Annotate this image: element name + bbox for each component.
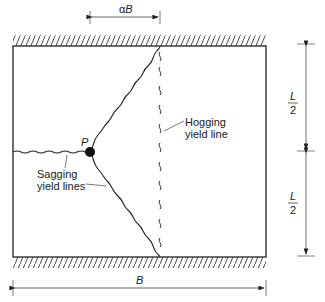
hogging-label-1: Hogging bbox=[185, 116, 226, 128]
sagging-leader-2 bbox=[86, 184, 106, 186]
l-upper-numerator: L bbox=[290, 90, 296, 102]
yield-line-diagram: P Hogging yield line Sagging yield lines… bbox=[0, 0, 325, 302]
alpha-b-label: αB bbox=[119, 3, 133, 15]
b-label: B bbox=[136, 274, 143, 286]
sagging-yield-line-lower bbox=[90, 152, 160, 257]
sagging-label-2: yield lines bbox=[37, 180, 86, 192]
sagging-yield-line-horizontal bbox=[13, 151, 91, 153]
hogging-leader bbox=[164, 121, 184, 131]
hogging-label-2: yield line bbox=[185, 128, 228, 140]
l-lower-numerator: L bbox=[290, 190, 296, 202]
hogging-yield-line bbox=[159, 52, 161, 247]
l-lower-denominator: 2 bbox=[290, 204, 296, 216]
sagging-label-1: Sagging bbox=[37, 168, 77, 180]
l-upper-denominator: 2 bbox=[290, 104, 296, 116]
sagging-leader-1 bbox=[65, 155, 67, 168]
point-p-label: P bbox=[81, 136, 89, 148]
sagging-yield-line-upper bbox=[90, 46, 160, 152]
bottom-support-hatch bbox=[13, 257, 266, 268]
top-support-hatch bbox=[13, 35, 266, 46]
point-p-marker bbox=[85, 147, 95, 157]
